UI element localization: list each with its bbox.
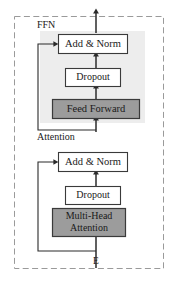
block-dropout-attn-rect <box>66 187 121 205</box>
block-feed-forward-rect <box>53 100 140 119</box>
encoder-layer-diagram: FFN Attention E Add & Norm Dropout Feed … <box>0 0 178 282</box>
block-multi-head-attention-rect <box>53 209 126 237</box>
diagram-canvas-svg <box>0 0 178 282</box>
edge-attention-residual <box>38 162 96 251</box>
block-dropout-ffn-rect <box>66 69 121 87</box>
block-add-norm-attn-rect <box>59 153 128 172</box>
input-embedding-label: E <box>93 256 99 266</box>
ffn-section-label: FFN <box>37 19 55 30</box>
attention-section-label: Attention <box>37 131 75 142</box>
block-add-norm-ffn-rect <box>59 35 128 54</box>
